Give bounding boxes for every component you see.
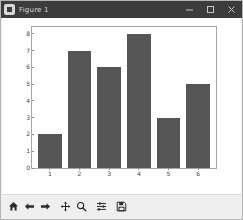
matplotlib-icon: [4, 4, 15, 15]
window-title: Figure 1: [19, 6, 49, 14]
y-tick-mark: [32, 100, 34, 101]
x-tick-label: 3: [107, 171, 111, 177]
sliders-icon[interactable]: [94, 199, 109, 214]
plot-axes[interactable]: 012345678123456: [31, 26, 217, 169]
navigation-toolbar: [2, 194, 241, 218]
bar: [97, 67, 121, 168]
bar: [186, 84, 210, 168]
bar: [127, 34, 151, 168]
figure-window: Figure 1 012345678123456: [0, 0, 243, 220]
x-axis-tick: 3: [107, 168, 111, 177]
x-axis-tick: 2: [78, 168, 82, 177]
x-axis-tick: 4: [137, 168, 141, 177]
bar: [38, 134, 62, 168]
x-axis-tick: 5: [167, 168, 171, 177]
y-tick-mark: [32, 67, 34, 68]
x-axis-tick: 1: [48, 168, 52, 177]
bar: [68, 51, 92, 169]
floppy-disk-icon[interactable]: [114, 199, 129, 214]
move-cross-icon[interactable]: [58, 199, 73, 214]
minimize-button[interactable]: [179, 1, 200, 18]
y-tick-mark: [32, 168, 34, 169]
window-titlebar[interactable]: Figure 1: [1, 1, 242, 18]
magnifier-icon[interactable]: [74, 199, 89, 214]
y-tick-mark: [32, 84, 34, 85]
bar: [157, 118, 181, 168]
arrow-left-icon[interactable]: [22, 199, 37, 214]
y-tick-mark: [32, 117, 34, 118]
x-tick-label: 5: [167, 171, 171, 177]
figure-canvas[interactable]: 012345678123456: [2, 18, 241, 194]
x-tick-label: 4: [137, 171, 141, 177]
y-tick-mark: [32, 33, 34, 34]
home-icon[interactable]: [6, 199, 21, 214]
maximize-button[interactable]: [200, 1, 221, 18]
window-controls: [179, 1, 242, 18]
x-tick-label: 2: [78, 171, 82, 177]
x-tick-label: 6: [196, 171, 200, 177]
arrow-right-icon[interactable]: [38, 199, 53, 214]
close-button[interactable]: [221, 1, 242, 18]
x-axis-tick: 6: [196, 168, 200, 177]
y-tick-mark: [32, 134, 34, 135]
y-tick-mark: [32, 50, 34, 51]
x-tick-label: 1: [48, 171, 52, 177]
y-tick-mark: [32, 151, 34, 152]
